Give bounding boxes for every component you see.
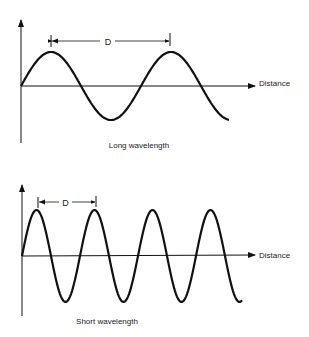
caption: Short wavelength <box>76 317 138 326</box>
caption: Long wavelength <box>109 141 170 150</box>
dimension-label: D <box>62 198 69 208</box>
axis-label-distance: Distance <box>259 79 291 88</box>
panel-short-wavelength: D Distance Short wavelength <box>22 185 291 326</box>
panel-long-wavelength: D Distance Long wavelength <box>21 20 291 150</box>
axis-label-distance: Distance <box>259 251 291 260</box>
dimension-marker: D <box>38 196 96 208</box>
wavelength-diagram: D Distance Long wavelength D Distance Sh… <box>0 0 309 337</box>
dimension-label: D <box>105 37 112 47</box>
dimension-marker: D <box>51 33 170 47</box>
